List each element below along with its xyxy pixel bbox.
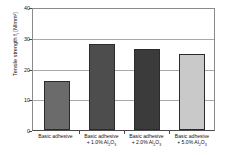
bar-2-0-percent-al2o3 <box>134 49 160 130</box>
x-label-line2: + 5.0% Al2O3 <box>169 139 215 148</box>
bar-series <box>33 9 214 130</box>
bar-5-0-percent-al2o3 <box>179 54 205 130</box>
y-axis-title: Tensile strength ft [N/mm²] <box>12 0 20 92</box>
y-tick-label-0: 0 <box>0 128 30 134</box>
y-tick-mark-0 <box>29 131 32 132</box>
x-label-line2-pre: + 1.0% Al <box>87 139 109 145</box>
x-label-line2-sub2: 3 <box>114 143 116 147</box>
plot-area <box>32 8 215 131</box>
x-label-2-0-percent-al2o3: Basic adhesive + 2.0% Al2O3 <box>124 133 169 148</box>
x-label-basic-adhesive: Basic adhesive <box>32 133 79 139</box>
x-label-line2: + 1.0% Al2O3 <box>79 139 124 148</box>
y-axis-title-unit: [N/mm²] <box>12 12 18 33</box>
x-label-line2-pre: + 5.0% Al <box>177 139 199 145</box>
x-axis-labels: Basic adhesive Basic adhesive + 1.0% Al2… <box>32 133 215 155</box>
x-label-line2-sub2: 3 <box>159 143 161 147</box>
x-label-line1: Basic adhesive <box>32 133 79 139</box>
x-label-line2-sub2: 3 <box>205 143 207 147</box>
y-tick-label-10: 10 <box>0 97 30 103</box>
y-axis-title-main: Tensile strength f <box>12 34 18 76</box>
bar-basic-adhesive <box>44 81 70 130</box>
bar-1-0-percent-al2o3 <box>89 44 115 130</box>
x-label-line2-pre: + 2.0% Al <box>132 139 154 145</box>
x-label-5-0-percent-al2o3: Basic adhesive + 5.0% Al2O3 <box>169 133 215 148</box>
y-axis-title-subscript: t <box>16 33 20 34</box>
x-label-1-0-percent-al2o3: Basic adhesive + 1.0% Al2O3 <box>79 133 124 148</box>
tensile-strength-bar-chart: 40 30 20 10 0 Tensile strength ft [N/mm²… <box>0 0 225 155</box>
x-label-line2: + 2.0% Al2O3 <box>124 139 169 148</box>
